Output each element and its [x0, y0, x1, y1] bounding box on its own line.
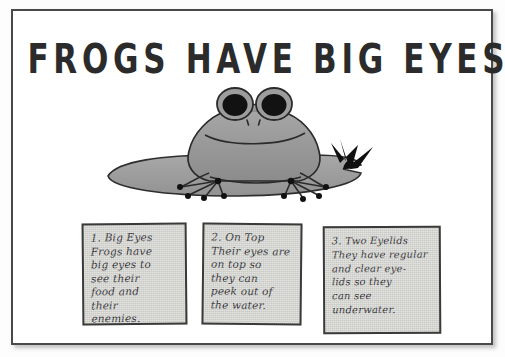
frog-left-eye — [217, 88, 253, 120]
poster-canvas: FROGS HAVE BIG EYES — [0, 0, 505, 357]
frog-illustration — [13, 73, 495, 213]
fact-box-3-text: 3. Two Eyelids They have regular and cle… — [332, 234, 434, 317]
fact-box-2: 2. On Top Their eyes are on top so they … — [201, 222, 302, 325]
fact-box-2-text: 2. On Top Their eyes are on top so they … — [211, 231, 296, 313]
frog-illustration-svg — [13, 73, 495, 213]
frog-right-eye — [256, 88, 292, 120]
fact-boxes: 1. Big Eyes Frogs have big eyes to see t… — [71, 215, 443, 340]
fact-box-1-text: 1. Big Eyes Frogs have big eyes to see t… — [91, 231, 181, 326]
page-frame: FROGS HAVE BIG EYES — [11, 9, 493, 345]
fact-box-3: 3. Two Eyelids They have regular and cle… — [323, 226, 442, 335]
fact-box-1: 1. Big Eyes Frogs have big eyes to see t… — [82, 223, 188, 326]
